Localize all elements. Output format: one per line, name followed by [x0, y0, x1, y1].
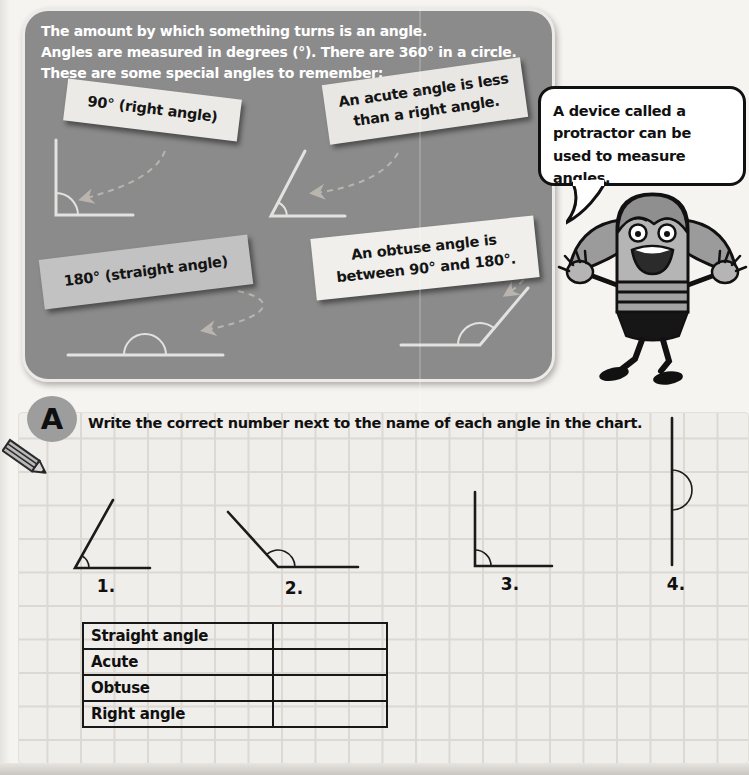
- figure-4-label: 4.: [658, 574, 694, 594]
- figure-1-acute-angle: [55, 494, 167, 576]
- table-row-right: Right angle: [83, 701, 387, 727]
- arrow-to-acute-angle: [314, 153, 398, 193]
- intro-line-1: The amount by which something turns is a…: [41, 21, 544, 42]
- obtuse-angle-diagram: [401, 288, 528, 345]
- figure-4-straight-angle: [658, 413, 703, 571]
- figure-2-label: 2.: [276, 578, 312, 598]
- answer-cell-straight[interactable]: [273, 623, 387, 649]
- angle-name-cell: Straight angle: [83, 623, 273, 649]
- figure-3-label: 3.: [492, 574, 528, 594]
- intro-line-2: Angles are measured in degrees (°). Ther…: [41, 42, 544, 63]
- card-right-angle-text: 90° (right angle): [86, 92, 218, 129]
- right-angle-diagram: [56, 140, 133, 215]
- table-row-straight: Straight angle: [83, 623, 387, 649]
- figure-3-right-angle: [465, 486, 560, 572]
- pencil-icon: [2, 428, 74, 494]
- angle-name-cell: Obtuse: [83, 675, 273, 701]
- answer-table: Straight angle Acute Obtuse Right angle: [82, 622, 388, 728]
- angle-name-cell: Right angle: [83, 701, 273, 727]
- answer-cell-acute[interactable]: [273, 649, 387, 675]
- figure-2-obtuse-angle: [215, 502, 367, 574]
- intro-panel: The amount by which something turns is a…: [22, 8, 555, 382]
- speech-bubble: A device called a protractor can be used…: [538, 86, 746, 186]
- answer-cell-obtuse[interactable]: [273, 675, 387, 701]
- angle-name-cell: Acute: [83, 649, 273, 675]
- pencil-base: [617, 312, 688, 341]
- page-left-edge: [0, 0, 10, 775]
- straight-angle-diagram: [68, 334, 223, 355]
- page-bottom-edge: [0, 763, 749, 775]
- card-straight-angle-text: 180° (straight angle): [63, 252, 229, 293]
- table-row-obtuse: Obtuse: [83, 675, 387, 701]
- acute-angle-diagram: [271, 151, 345, 216]
- arrow-to-straight-angle: [205, 291, 263, 330]
- table-row-acute: Acute: [83, 649, 387, 675]
- arrow-to-right-angle: [83, 151, 165, 199]
- speech-bubble-text: A device called a protractor can be used…: [553, 103, 691, 186]
- speech-bubble-tail: [566, 180, 612, 226]
- stripe-band: [617, 282, 688, 312]
- exercise-instruction: Write the correct number next to the nam…: [88, 415, 743, 431]
- workbook-page: The amount by which something turns is a…: [0, 0, 749, 775]
- legs: [598, 340, 684, 387]
- answer-cell-right[interactable]: [273, 701, 387, 727]
- figure-1-label: 1.: [88, 576, 124, 596]
